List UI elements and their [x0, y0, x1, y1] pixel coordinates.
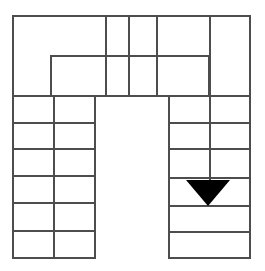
maze-grid-diagram — [0, 0, 265, 271]
screenshot-canvas: Maze grid with downward arrow marker — [0, 0, 265, 271]
